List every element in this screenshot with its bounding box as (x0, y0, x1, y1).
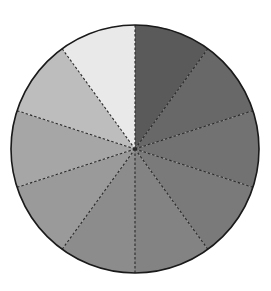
pie-chart (0, 0, 271, 291)
pie-center-dot (133, 147, 136, 150)
